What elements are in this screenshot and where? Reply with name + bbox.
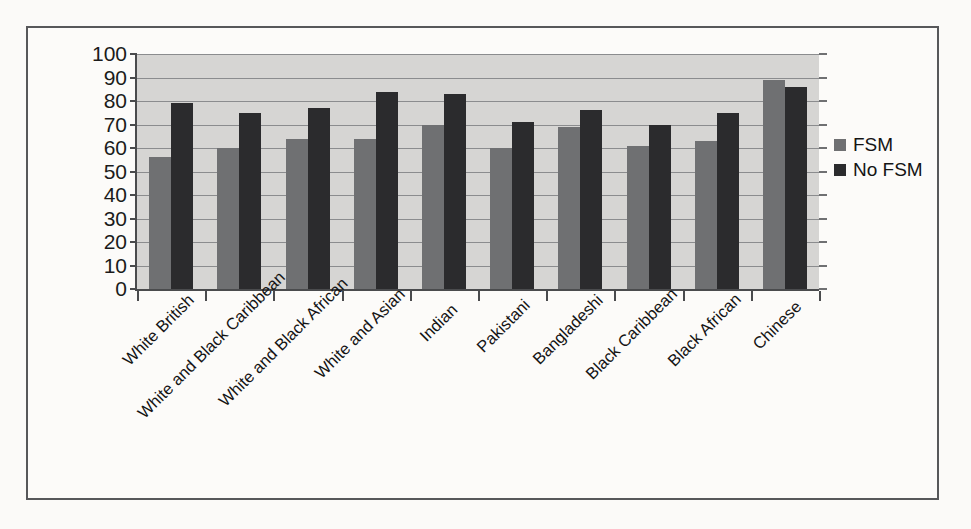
y-axis-tick [130,194,137,196]
legend-item-no-fsm: No FSM [834,157,934,182]
bar-fsm [490,148,512,289]
y-axis-tick-right [819,124,827,126]
y-axis-tick-label: 80 [67,90,127,111]
y-axis-tick-labels: 0102030405060708090100 [67,54,127,289]
bar-fsm [217,148,239,289]
bar-fsm [763,80,785,289]
legend-swatch-fsm [834,139,846,151]
figure-frame: 0102030405060708090100 White BritishWhit… [26,26,939,500]
bar-no-fsm [171,103,193,289]
legend-label-no-fsm: No FSM [853,160,923,179]
legend-label-fsm: FSM [853,135,893,154]
bar-fsm [286,139,308,289]
x-axis-tick [819,291,821,301]
plot-area [135,54,819,291]
x-axis-label: Chinese [749,297,805,353]
bar-fsm [149,157,171,289]
y-axis-tick-right [819,218,827,220]
y-axis-tick [130,241,137,243]
y-axis-tick [130,288,137,290]
y-axis-tick-label: 0 [67,278,127,299]
x-axis-label: Pakistani [473,296,534,357]
legend-swatch-no-fsm [834,164,846,176]
y-axis-tick-right [819,241,827,243]
y-axis-tick-label: 70 [67,114,127,135]
y-axis-tick [130,218,137,220]
y-axis-tick-label: 40 [67,184,127,205]
y-axis-tick [130,147,137,149]
legend-item-fsm: FSM [834,132,934,157]
y-axis-tick-right [819,77,827,79]
bar-fsm [558,127,580,289]
chart-legend: FSM No FSM [834,132,934,182]
y-axis-tick [130,77,137,79]
y-axis-tick-label: 30 [67,208,127,229]
x-axis-category-labels: White BritishWhite and Black CaribbeanWh… [135,300,817,440]
bar-fsm [695,141,717,289]
y-axis-tick-right [819,147,827,149]
y-axis-tick-label: 50 [67,161,127,182]
bar-no-fsm [239,113,261,289]
bar-fsm [422,125,444,290]
y-axis-tick-label: 60 [67,137,127,158]
bar-chart: 0102030405060708090100 White BritishWhit… [28,28,941,502]
y-axis-tick-label: 90 [67,67,127,88]
y-axis-tick-right [819,288,827,290]
y-axis-tick-right [819,265,827,267]
y-axis-tick-right [819,194,827,196]
gridline [137,101,819,102]
y-axis-tick-label: 10 [67,255,127,276]
y-axis-tick [130,124,137,126]
bar-no-fsm [444,94,466,289]
bar-no-fsm [580,110,602,289]
bar-no-fsm [308,108,330,289]
y-axis-tick-label: 20 [67,231,127,252]
y-axis-tick-label: 100 [67,43,127,64]
bar-no-fsm [785,87,807,289]
y-axis-tick [130,100,137,102]
gridline [137,78,819,79]
bar-no-fsm [717,113,739,289]
y-axis-tick-right [819,171,827,173]
y-axis-tick-right [819,100,827,102]
y-axis-tick-right [819,53,827,55]
gridline [137,54,819,55]
bar-no-fsm [376,92,398,289]
bar-fsm [354,139,376,289]
x-axis-label: White and Black African [215,273,352,410]
x-axis-label: Indian [416,300,461,345]
y-axis-tick [130,171,137,173]
bar-no-fsm [649,125,671,290]
bar-fsm [627,146,649,289]
y-axis-tick [130,53,137,55]
y-axis-tick [130,265,137,267]
bar-no-fsm [512,122,534,289]
